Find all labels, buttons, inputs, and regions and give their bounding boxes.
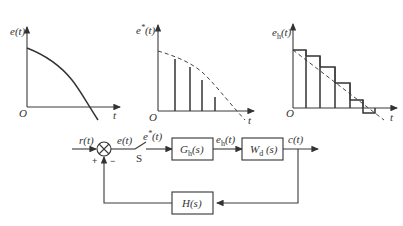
y-axis-label: e*(t): [136, 23, 156, 37]
sampled-signal-plot: e*(t) t O: [136, 23, 254, 126]
x-axis-label: t: [390, 111, 394, 123]
continuous-signal-plot: e(t) t O: [10, 25, 120, 121]
feedback-block-label: H(s): [181, 197, 202, 210]
sampler-switch: [135, 142, 146, 149]
held-signal-label: eh(t): [216, 133, 236, 148]
input-label: r(t): [79, 134, 94, 147]
origin-label: O: [286, 107, 294, 119]
summing-junction: [97, 142, 111, 156]
x-axis-label: t: [113, 109, 117, 121]
error-label: e(t): [117, 134, 133, 147]
sampled-error-label: e*(t): [143, 129, 163, 143]
output-label: c(t): [288, 133, 304, 146]
sampled-control-diagram: e(t) t O e*(t) t O eh(t) t O r(t): [0, 0, 403, 226]
x-axis-label: t: [248, 114, 252, 126]
origin-label: O: [19, 107, 27, 119]
y-axis-label: eh(t): [272, 26, 292, 41]
continuous-curve: [27, 48, 98, 120]
origin-label: O: [149, 111, 157, 123]
held-signal-plot: eh(t) t O: [272, 24, 397, 123]
block-diagram: r(t) + − e(t) S e*(t) Gh(s) eh(t) Wd (s)…: [72, 129, 318, 214]
minus-sign: −: [110, 156, 115, 166]
plus-sign: +: [92, 156, 97, 166]
switch-label: S: [136, 152, 142, 164]
y-axis-label: e(t): [10, 25, 26, 38]
